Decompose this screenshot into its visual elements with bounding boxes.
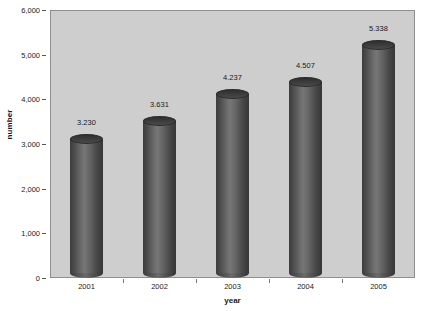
bar[interactable]: 4.507 xyxy=(289,71,322,278)
bar-cylinder xyxy=(143,116,176,278)
y-tick-mark xyxy=(42,99,46,100)
bar-body xyxy=(70,139,103,273)
bar-cylinder xyxy=(216,89,249,278)
y-tick-label: 1,000 xyxy=(21,229,40,238)
bar-body xyxy=(362,45,395,273)
bar-cylinder xyxy=(362,40,395,278)
bar-top-cap xyxy=(289,77,322,87)
bar-body xyxy=(289,82,322,273)
bar[interactable]: 4.237 xyxy=(216,83,249,278)
y-tick-label: 3,000 xyxy=(21,140,40,149)
y-tick-mark xyxy=(42,233,46,234)
y-tick-mark xyxy=(42,189,46,190)
x-tick-mark xyxy=(123,279,124,283)
x-tick-mark xyxy=(196,279,197,283)
bar-value-label: 4.507 xyxy=(296,61,315,70)
x-tick-label: 2004 xyxy=(297,282,314,291)
bar-top-cap xyxy=(143,116,176,126)
bar-value-label: 5.338 xyxy=(369,24,388,33)
y-tick-label: 6,000 xyxy=(21,6,40,15)
y-tick-label: 2,000 xyxy=(21,184,40,193)
bar[interactable]: 5.338 xyxy=(362,34,395,278)
x-tick-label: 2001 xyxy=(78,282,95,291)
x-tick-mark xyxy=(342,279,343,283)
bars-layer: 3.2303.6314.2374.5075.338 xyxy=(50,10,415,278)
y-axis: 01,0002,0003,0004,0005,0006,000 xyxy=(0,0,46,311)
bar-top-cap xyxy=(70,134,103,144)
bar-chart: 01,0002,0003,0004,0005,0006,000 number 3… xyxy=(0,0,426,311)
bar-cylinder xyxy=(289,77,322,278)
y-tick-label: 0 xyxy=(36,274,40,283)
y-tick-label: 4,000 xyxy=(21,95,40,104)
x-tick-mark xyxy=(269,279,270,283)
y-axis-title: number xyxy=(5,126,14,140)
bar-top-cap xyxy=(362,40,395,50)
bar-value-label: 3.631 xyxy=(150,100,169,109)
x-tick-label: 2002 xyxy=(151,282,168,291)
y-tick-mark xyxy=(42,144,46,145)
y-tick-mark xyxy=(42,10,46,11)
x-axis: 20012002200320042005 xyxy=(50,282,415,296)
y-tick-mark xyxy=(42,55,46,56)
y-tick-mark xyxy=(42,278,46,279)
bar[interactable]: 3.631 xyxy=(143,110,176,278)
y-tick-label: 5,000 xyxy=(21,50,40,59)
bar[interactable]: 3.230 xyxy=(70,128,103,278)
x-axis-title: year xyxy=(50,296,415,305)
x-tick-label: 2003 xyxy=(224,282,241,291)
bar-cylinder xyxy=(70,134,103,278)
bar-value-label: 4.237 xyxy=(223,73,242,82)
bar-value-label: 3.230 xyxy=(77,118,96,127)
bar-body xyxy=(216,94,249,273)
bar-body xyxy=(143,121,176,273)
bar-top-cap xyxy=(216,89,249,99)
x-tick-label: 2005 xyxy=(370,282,387,291)
